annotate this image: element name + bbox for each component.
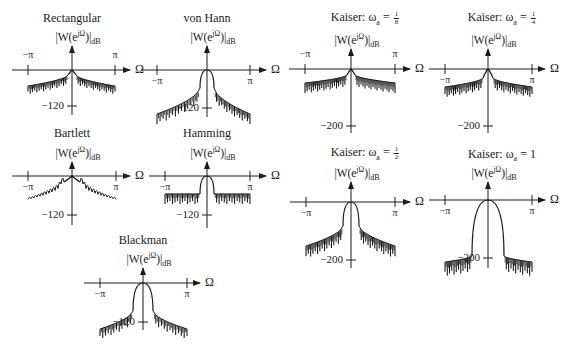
y-axis-label: |W(ejΩ)|dB bbox=[471, 166, 516, 182]
panel-title-text: Bartlett bbox=[54, 126, 90, 140]
title-eq: = bbox=[517, 10, 530, 24]
panel-kaiser-1-8 bbox=[289, 49, 410, 133]
fraction: 14 bbox=[531, 11, 537, 26]
ylabel-sub: dB bbox=[370, 173, 379, 182]
frac-den: 8 bbox=[394, 19, 400, 26]
title-prefix: Kaiser: ω bbox=[331, 10, 377, 24]
ylabel-base: |W(e bbox=[471, 34, 493, 46]
frac-den: 4 bbox=[531, 19, 537, 26]
panel-title: Kaiser: ωa = 12 bbox=[331, 146, 399, 162]
min-db-label: −120 bbox=[176, 209, 199, 220]
tick-pi: π bbox=[247, 76, 252, 86]
ylabel-base: |W(e bbox=[190, 147, 212, 159]
panel-title: von Hann bbox=[184, 12, 231, 24]
y-axis-label: |W(ejΩ)|dB bbox=[55, 30, 100, 46]
ylabel-sub: dB bbox=[226, 153, 235, 162]
min-db-label: −200 bbox=[320, 120, 343, 131]
ylabel-exp: jΩ bbox=[493, 165, 501, 174]
ylabel-exp: jΩ bbox=[356, 165, 364, 174]
ylabel-sub: dB bbox=[91, 37, 100, 46]
ylabel-exp: jΩ bbox=[212, 29, 220, 38]
min-db-label: −200 bbox=[457, 120, 480, 131]
panel-kaiser-1 bbox=[429, 182, 545, 276]
ylabel-sub: dB bbox=[91, 153, 100, 162]
ylabel-sub: dB bbox=[370, 40, 379, 49]
panel-title-text: Blackman bbox=[119, 233, 168, 247]
panel-bartlett bbox=[12, 162, 130, 225]
title-prefix: Kaiser: ω bbox=[468, 10, 514, 24]
ylabel-base: |W(e bbox=[334, 167, 356, 179]
tick-pi: π bbox=[184, 289, 189, 299]
ylabel-base: |W(e bbox=[55, 31, 77, 43]
panel-kaiser-1-2 bbox=[290, 182, 410, 268]
ylabel-exp: jΩ bbox=[148, 251, 156, 260]
y-axis-label: |W(ejΩ)|dB bbox=[126, 252, 171, 268]
tick-neg-pi: −π bbox=[300, 49, 311, 59]
y-axis-label: |W(ejΩ)|dB bbox=[334, 33, 379, 49]
tick-neg-pi: −π bbox=[160, 182, 171, 192]
y-axis-label: |W(ejΩ)|dB bbox=[190, 30, 235, 46]
panel-title: Kaiser: ωa = 1 bbox=[468, 148, 536, 163]
panel-title-text: Rectangular bbox=[43, 11, 101, 25]
panel-blackman bbox=[84, 268, 200, 338]
panel-title: Blackman bbox=[119, 234, 168, 246]
panel-title: Hamming bbox=[183, 127, 231, 139]
tick-neg-pi: −π bbox=[23, 50, 34, 60]
tick-neg-pi: −π bbox=[301, 208, 312, 218]
tick-neg-pi: −π bbox=[23, 182, 34, 192]
tick-pi: π bbox=[113, 182, 118, 192]
y-axis-label: |W(ejΩ)|dB bbox=[334, 166, 379, 182]
tick-pi: π bbox=[392, 49, 397, 59]
title-prefix: Kaiser: ω bbox=[331, 145, 377, 159]
x-axis-label: Ω bbox=[550, 62, 559, 74]
fraction: 18 bbox=[394, 11, 400, 26]
ylabel-base: |W(e bbox=[126, 253, 148, 265]
min-db-label: −120 bbox=[41, 100, 64, 111]
x-axis-label: Ω bbox=[415, 62, 424, 74]
panel-title: Rectangular bbox=[43, 12, 101, 24]
x-axis-label: Ω bbox=[135, 63, 144, 75]
tick-neg-pi: −π bbox=[95, 289, 106, 299]
min-db-label: −200 bbox=[457, 252, 480, 263]
ylabel-base: |W(e bbox=[190, 31, 212, 43]
tick-neg-pi: −π bbox=[152, 76, 163, 86]
ylabel-sub: dB bbox=[162, 259, 171, 268]
fraction: 12 bbox=[394, 146, 400, 161]
ylabel-exp: jΩ bbox=[356, 32, 364, 41]
title-prefix: Kaiser: ω bbox=[468, 147, 514, 161]
ylabel-base: |W(e bbox=[334, 34, 356, 46]
tick-pi: π bbox=[529, 206, 534, 216]
min-db-label: −120 bbox=[112, 316, 135, 327]
panel-kaiser-1-4 bbox=[429, 49, 545, 133]
min-db-label: −200 bbox=[320, 254, 343, 265]
tick-pi: π bbox=[247, 182, 252, 192]
x-axis-label: Ω bbox=[271, 169, 280, 181]
ylabel-sub: dB bbox=[226, 37, 235, 46]
panel-hamming bbox=[149, 162, 266, 228]
panel-title: Kaiser: ωa = 14 bbox=[468, 11, 536, 27]
y-axis-label: |W(ejΩ)|dB bbox=[190, 146, 235, 162]
frac-den: 2 bbox=[394, 154, 400, 161]
title-eq: = 1 bbox=[517, 147, 536, 161]
min-db-label: −120 bbox=[176, 102, 199, 113]
panel-title: Bartlett bbox=[54, 127, 90, 139]
x-axis-label: Ω bbox=[550, 193, 559, 205]
x-axis-label: Ω bbox=[271, 63, 280, 75]
ylabel-base: |W(e bbox=[55, 147, 77, 159]
y-axis-label: |W(ejΩ)|dB bbox=[55, 146, 100, 162]
tick-pi: π bbox=[112, 50, 117, 60]
tick-pi: π bbox=[392, 208, 397, 218]
title-eq: = bbox=[380, 10, 393, 24]
ylabel-sub: dB bbox=[507, 173, 516, 182]
panel-title: Kaiser: ωa = 18 bbox=[331, 11, 399, 27]
panel-title-text: Hamming bbox=[183, 126, 231, 140]
x-axis-label: Ω bbox=[415, 195, 424, 207]
tick-neg-pi: −π bbox=[440, 206, 451, 216]
ylabel-exp: jΩ bbox=[77, 145, 85, 154]
x-axis-label: Ω bbox=[205, 276, 214, 288]
tick-neg-pi: −π bbox=[440, 75, 451, 85]
ylabel-exp: jΩ bbox=[212, 145, 220, 154]
min-db-label: −120 bbox=[41, 209, 64, 220]
panel-title-text: von Hann bbox=[184, 11, 231, 25]
y-axis-label: |W(ejΩ)|dB bbox=[471, 33, 516, 49]
